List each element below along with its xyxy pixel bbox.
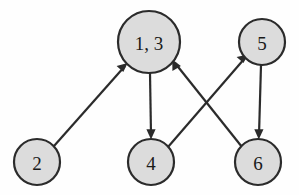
edge-5-to-6-line — [259, 65, 261, 135]
node-1-3[interactable]: 1, 3 — [118, 11, 180, 73]
edge-6-to-13-line — [175, 63, 242, 147]
edge-2-to-13 — [54, 63, 128, 146]
node-1-3-label: 1, 3 — [135, 33, 164, 54]
node-4-label: 4 — [146, 153, 156, 174]
edge-13-to-4 — [146, 73, 155, 140]
node-2[interactable]: 2 — [14, 139, 60, 185]
node-6-label: 6 — [253, 153, 263, 174]
node-5[interactable]: 5 — [239, 19, 285, 65]
node-5-label: 5 — [257, 33, 267, 54]
directed-graph-figure: 1, 3 5 2 4 6 — [0, 0, 299, 195]
edge-2-to-13-arrowhead — [117, 63, 128, 72]
edge-13-to-4-line — [150, 73, 151, 135]
node-2-label: 2 — [32, 153, 42, 174]
graph-canvas: 1, 3 5 2 4 6 — [0, 0, 299, 195]
node-4[interactable]: 4 — [128, 139, 174, 185]
node-6[interactable]: 6 — [235, 139, 281, 185]
edge-5-to-6 — [254, 65, 263, 140]
edge-2-to-13-line — [54, 66, 125, 146]
